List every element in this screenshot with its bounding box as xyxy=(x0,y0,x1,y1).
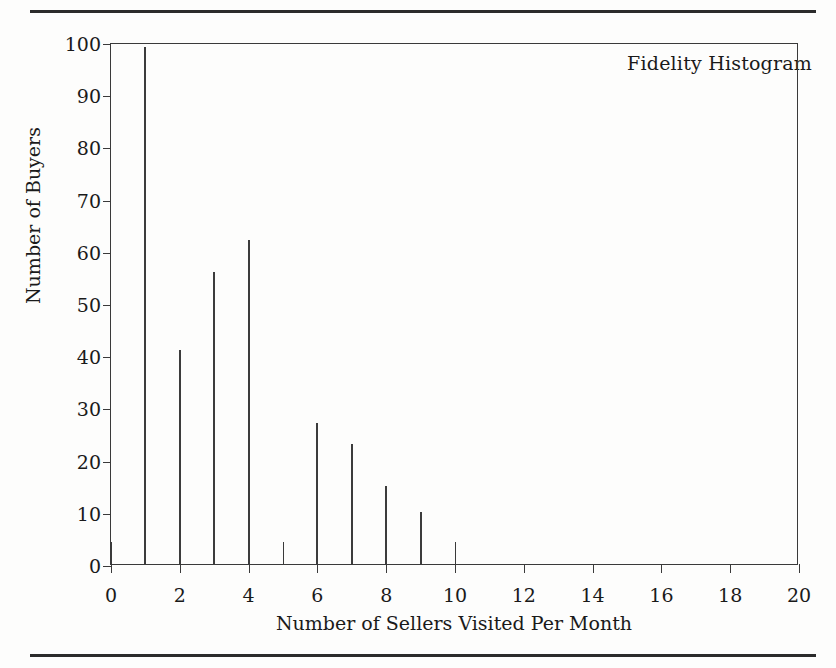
y-tick-mark xyxy=(103,566,111,567)
y-tick-label: 20 xyxy=(41,451,101,473)
x-tick-label: 12 xyxy=(512,584,536,606)
y-tick-label: 10 xyxy=(41,503,101,525)
y-tick-label: 70 xyxy=(41,190,101,212)
x-tick-label: 0 xyxy=(105,584,117,606)
x-tick-mark xyxy=(249,564,250,573)
x-tick-mark xyxy=(111,564,112,573)
y-tick-mark xyxy=(103,44,111,45)
x-tick-label: 10 xyxy=(443,584,467,606)
bar xyxy=(385,486,387,564)
top-horizontal-rule xyxy=(30,10,816,13)
x-tick-mark xyxy=(524,564,525,573)
x-tick-label: 4 xyxy=(243,584,255,606)
y-tick-label: 0 xyxy=(41,555,101,577)
y-tick-label: 90 xyxy=(41,85,101,107)
y-tick-label: 40 xyxy=(41,346,101,368)
x-tick-mark xyxy=(386,564,387,573)
x-tick-label: 2 xyxy=(174,584,186,606)
bar xyxy=(420,512,422,564)
x-tick-label: 14 xyxy=(581,584,605,606)
bar xyxy=(213,272,215,564)
y-tick-mark xyxy=(103,409,111,410)
y-tick-mark xyxy=(103,514,111,515)
figure-container: Fidelity Histogram Number of Buyers Numb… xyxy=(0,0,836,668)
bar xyxy=(179,350,181,564)
x-tick-mark xyxy=(799,564,800,573)
y-tick-mark xyxy=(103,305,111,306)
bar xyxy=(351,444,353,564)
y-tick-mark xyxy=(103,357,111,358)
y-tick-mark xyxy=(103,96,111,97)
y-tick-label: 60 xyxy=(41,242,101,264)
bar xyxy=(248,240,250,564)
y-tick-mark xyxy=(103,253,111,254)
x-tick-label: 8 xyxy=(380,584,392,606)
x-tick-mark xyxy=(180,564,181,573)
bar xyxy=(144,47,146,564)
x-tick-mark xyxy=(317,564,318,573)
y-tick-label: 50 xyxy=(41,294,101,316)
x-tick-label: 16 xyxy=(649,584,673,606)
bar xyxy=(316,423,318,564)
y-tick-mark xyxy=(103,201,111,202)
x-minor-tick-mark xyxy=(455,542,456,564)
x-tick-mark xyxy=(730,564,731,573)
x-tick-label: 18 xyxy=(718,584,742,606)
x-axis-title: Number of Sellers Visited Per Month xyxy=(110,612,798,634)
x-minor-tick-mark xyxy=(283,542,284,564)
x-tick-mark xyxy=(661,564,662,573)
y-tick-label: 100 xyxy=(41,33,101,55)
x-tick-mark xyxy=(593,564,594,573)
x-tick-label: 20 xyxy=(787,584,811,606)
x-tick-mark xyxy=(455,564,456,573)
x-minor-tick-mark xyxy=(111,542,112,564)
y-tick-label: 30 xyxy=(41,398,101,420)
y-tick-mark xyxy=(103,462,111,463)
plot-area: 0102030405060708090100 02468101214161820 xyxy=(110,43,798,565)
y-tick-label: 80 xyxy=(41,137,101,159)
x-tick-label: 6 xyxy=(311,584,323,606)
bottom-horizontal-rule xyxy=(30,654,816,657)
y-tick-mark xyxy=(103,148,111,149)
